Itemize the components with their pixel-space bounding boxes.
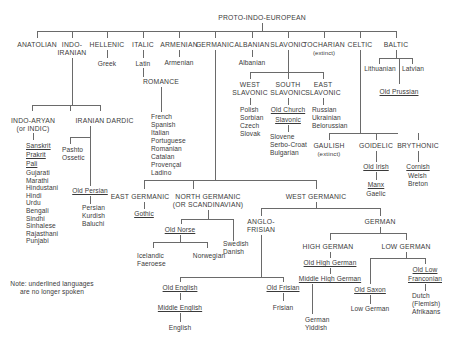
connector: [252, 31, 253, 38]
connector: [288, 50, 289, 72]
connector: [215, 31, 216, 38]
lang-french: French: [151, 113, 186, 121]
lang-slovak: Slovak: [240, 130, 263, 138]
branch-celtic: CELTIC: [348, 41, 373, 49]
lang-catalan: Catalan: [151, 153, 186, 161]
connector: [233, 219, 234, 241]
lang-old-church-slavonic-1: Old Church: [271, 106, 305, 114]
lang-prakrit: Prakrit: [26, 151, 46, 159]
connector: [399, 58, 400, 84]
branch-albanian: ALBANIAN: [234, 41, 269, 49]
legend-note: Note: underlined languages are no longer…: [10, 280, 93, 296]
branch-baltic: BALTIC: [384, 41, 409, 49]
connector: [144, 180, 145, 189]
label-line: GAULISH: [313, 142, 344, 150]
connector: [261, 208, 380, 209]
branch-dardic: DARDIC: [106, 117, 133, 125]
swedish-danish: Swedish Danish: [223, 240, 249, 256]
lang-old-english: Old English: [163, 284, 198, 292]
label-line: EAST: [305, 81, 340, 89]
label-line: SOUTH: [270, 81, 305, 89]
lang-old-persian: Old Persian: [72, 187, 108, 195]
connector: [179, 50, 180, 57]
connector: [376, 133, 377, 140]
connector: [288, 98, 289, 105]
lang-gothic: Gothic: [134, 210, 154, 218]
connector: [379, 58, 380, 64]
persian-languages: Persian Kurdish Baluchi: [82, 204, 105, 228]
branch-indo-aryan: INDO-ARYAN (or INDIC): [11, 117, 55, 133]
lang-cornish: Cornish: [406, 163, 429, 171]
connector: [396, 31, 397, 38]
connector: [37, 31, 396, 32]
romance-languages: French Spanish Italian Portuguese Romani…: [151, 113, 186, 177]
lang-welsh: Welsh: [408, 172, 428, 180]
connector: [70, 137, 90, 138]
connector: [379, 58, 412, 59]
branch-north-germanic: NORTH GERMANIC (OR SCANDINAVIAN): [173, 193, 244, 209]
lang-sorbian: Sorbian: [240, 114, 263, 122]
lang-latvian: Latvian: [402, 65, 424, 73]
connector: [250, 72, 323, 73]
lang-sinhalese: Sinhalese: [26, 222, 58, 230]
lang-old-low-franconian-1: Old Low: [413, 266, 438, 274]
branch-anatolian: ANATOLIAN: [17, 41, 57, 49]
lang-old-saxon: Old Saxon: [354, 286, 386, 294]
label-line: IRANIAN: [58, 49, 87, 57]
lang-old-high-german: Old High German: [304, 259, 357, 267]
lang-bengali: Bengali: [26, 207, 58, 215]
lang-marathi: Marathi: [26, 177, 58, 185]
lang-old-frisian: Old Frisian: [267, 284, 300, 292]
lang-manx: Manx: [368, 181, 385, 189]
lang-portuguese: Portuguese: [151, 137, 186, 145]
connector: [70, 105, 71, 111]
lang-old-prussian: Old Prussian: [380, 88, 419, 96]
lang-old-church-slavonic-2: Slavonic: [275, 116, 301, 124]
branch-indo-iranian: INDO- IRANIAN: [58, 41, 87, 57]
lang-ukrainian: Ukrainian: [312, 114, 348, 122]
connector: [418, 133, 419, 140]
connector: [329, 133, 398, 134]
connector: [406, 233, 407, 240]
lang-faeroese: Faeroese: [137, 260, 166, 268]
lang-middle-high-german: Middle High German: [299, 275, 361, 283]
label-line: SLAVONIC: [305, 89, 340, 97]
connector: [100, 105, 101, 111]
lang-italian: Italian: [151, 129, 186, 137]
branch-armenian: ARMENIAN: [160, 41, 197, 49]
lang-polish: Polish: [240, 106, 263, 114]
connector: [425, 284, 426, 291]
label-line: (OR SCANDINAVIAN): [173, 201, 244, 209]
connector: [261, 235, 262, 277]
connector: [215, 50, 216, 180]
connector: [143, 68, 144, 77]
connector: [262, 23, 263, 31]
lang-pashto: Pashto: [62, 146, 85, 154]
label-line: FRISIAN: [247, 226, 275, 234]
lang-albanian: Albanian: [239, 59, 265, 67]
lang-armenian: Armenian: [164, 59, 193, 67]
label-line: WEST: [232, 81, 267, 89]
lang-kurdish: Kurdish: [82, 212, 105, 220]
lang-sindhi: Sindhi: [26, 215, 58, 223]
connector: [153, 242, 154, 248]
label-line: SLAVONIC: [232, 89, 267, 97]
connector: [360, 31, 361, 38]
connector: [90, 196, 91, 204]
lang-lithuanian: Lithuanian: [364, 65, 395, 73]
connector: [179, 31, 180, 38]
lang-old-irish: Old Irish: [363, 163, 388, 171]
lang-persian: Persian: [82, 204, 105, 212]
lang-middle-english: Middle English: [158, 304, 202, 312]
lang-ladino: Ladino: [151, 169, 186, 177]
lang-swedish: Swedish: [223, 240, 249, 248]
tocharian-extinct-note: (extinct): [313, 49, 335, 57]
label-line: (or INDIC): [11, 125, 55, 133]
lang-old-low-franconian-2: Franconian: [408, 275, 442, 283]
connector: [288, 31, 289, 38]
lang-pali: Pali: [26, 160, 37, 168]
connector: [316, 180, 317, 189]
branch-high-german: HIGH GERMAN: [303, 243, 354, 251]
connector: [370, 258, 425, 259]
branch-south-slavonic: SOUTH SLAVONIC: [270, 81, 305, 97]
